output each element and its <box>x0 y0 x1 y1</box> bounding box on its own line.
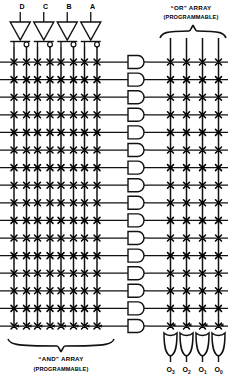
and-gate-15 <box>128 320 144 333</box>
and-gate-14 <box>128 302 144 315</box>
and-gate-13 <box>128 284 144 297</box>
inverter-triangle <box>81 22 101 40</box>
and-gate-column <box>128 56 148 333</box>
inverter-bubble <box>95 42 100 47</box>
output-label-1: O2 <box>182 366 190 375</box>
and-gate-12 <box>128 267 144 280</box>
and-gate-10 <box>128 232 144 245</box>
or-array-title: “OR” ARRAY <box>171 4 213 11</box>
input-label-c: C <box>43 3 48 10</box>
and-gate-8 <box>128 196 144 209</box>
output-label-3: O0 <box>214 366 222 375</box>
or-gate-1 <box>180 333 193 356</box>
inverter-bubble <box>71 42 76 47</box>
or-array-brace <box>160 26 226 39</box>
and-array-title: “AND” ARRAY <box>38 355 84 362</box>
and-gate-2 <box>128 91 144 104</box>
inverter-triangle <box>34 22 54 40</box>
and-array-subtitle: (PROGRAMMABLE) <box>34 366 89 372</box>
pla-diagram: D C B A “OR” ARRAY (PROGRAMMABLE) “AND” … <box>0 0 228 380</box>
input-buffer-group <box>10 12 101 48</box>
and-gate-1 <box>128 73 144 86</box>
and-gate-9 <box>128 214 144 227</box>
and-gate-3 <box>128 108 144 121</box>
or-gate-row <box>164 333 225 362</box>
product-term-lines <box>0 62 228 326</box>
inverter-bubble <box>48 42 53 47</box>
input-label-d: D <box>19 3 24 10</box>
pla-schematic-canvas: D C B A “OR” ARRAY (PROGRAMMABLE) “AND” … <box>0 0 228 380</box>
inverter-triangle <box>57 22 77 40</box>
or-gate-2 <box>196 333 209 356</box>
fuse-crosspoints <box>11 59 222 329</box>
and-gate-5 <box>128 144 144 157</box>
or-gate-3 <box>212 333 225 356</box>
and-gate-7 <box>128 179 144 192</box>
output-labels: O3O2O1O0 <box>166 366 222 375</box>
inverter-bubble <box>24 42 29 47</box>
or-gate-0 <box>164 333 177 356</box>
and-gate-4 <box>128 126 144 139</box>
or-array-subtitle: (PROGRAMMABLE) <box>164 14 219 20</box>
and-gate-11 <box>128 249 144 262</box>
input-label-b: B <box>66 3 71 10</box>
and-array-vertical-lines <box>14 47 97 326</box>
input-label-a: A <box>90 3 95 10</box>
output-label-2: O1 <box>198 366 206 375</box>
inverter-triangle <box>10 22 30 40</box>
and-array-brace <box>8 339 114 352</box>
or-array-vertical-lines <box>171 38 219 325</box>
output-label-0: O3 <box>166 366 174 375</box>
and-gate-6 <box>128 161 144 174</box>
and-gate-0 <box>128 56 144 69</box>
input-pin-labels: D C B A <box>19 3 95 10</box>
